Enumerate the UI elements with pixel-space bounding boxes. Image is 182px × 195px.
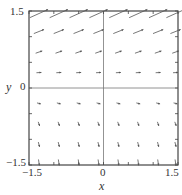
arrowhead-icon (119, 72, 121, 74)
arrowhead-icon (79, 72, 81, 74)
arrowhead-icon (59, 72, 61, 74)
vector-arrows (30, 9, 182, 165)
x-tick-1.5: 1.5 (165, 167, 179, 178)
x-tick-minus-1.5: −1.5 (22, 167, 42, 178)
plot-frame (29, 11, 178, 165)
arrowhead-icon (99, 72, 101, 74)
x-axis-label: x (99, 179, 104, 194)
arrowhead-icon (39, 72, 41, 74)
y-tick-0: 0 (20, 81, 26, 92)
y-axis-label: y (6, 80, 11, 95)
arrowhead-icon (159, 72, 161, 74)
y-tick-1.5: 1.5 (10, 6, 24, 17)
arrowhead-icon (139, 72, 141, 74)
x-tick-0: 0 (100, 167, 106, 178)
